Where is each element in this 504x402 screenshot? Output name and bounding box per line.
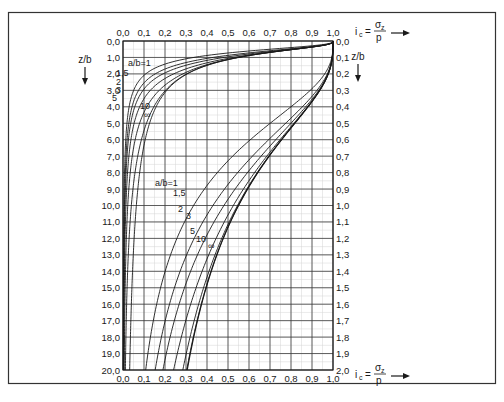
left-tick-label: 16,0 <box>102 299 121 310</box>
right-tick-label: 0,6 <box>336 134 349 145</box>
left-tick-label: 9,0 <box>107 184 120 195</box>
left-tick-label: 6,0 <box>107 134 120 145</box>
right-series-label: 3 <box>186 211 191 221</box>
right-series-label: 2 <box>178 204 183 214</box>
x-tick-label-bottom: 0,8 <box>284 373 297 384</box>
right-series-label: 10 <box>196 234 206 244</box>
right-y-tick-labels: 0,00,10,20,30,40,50,60,70,80,91,01,11,21… <box>336 36 349 376</box>
x-tick-label-bottom: 0,1 <box>137 373 150 384</box>
x-label-eq-bottom: = <box>365 369 371 380</box>
x-tick-label-bottom: 0,2 <box>158 373 171 384</box>
right-tick-label: 1,6 <box>336 299 349 310</box>
x-label-sub: c <box>359 31 363 38</box>
right-tick-label: 0,5 <box>336 118 349 129</box>
x-tick-label-bottom: 0,4 <box>200 373 213 384</box>
x-label-sigma-sub-bottom: z <box>381 367 385 374</box>
x-tick-label-bottom: 0,5 <box>221 373 234 384</box>
x-label-p: p <box>376 32 382 43</box>
right-tick-label: 0,1 <box>336 52 349 63</box>
x-tick-label-bottom: 0,3 <box>179 373 192 384</box>
left-tick-label: 17,0 <box>102 315 121 326</box>
right-tick-label: 1,9 <box>336 348 349 359</box>
right-tick-label: 2,0 <box>336 365 349 376</box>
left-tick-label: 13,0 <box>102 249 121 260</box>
right-series-label: ∞ <box>208 241 214 251</box>
right-tick-label: 1,0 <box>336 200 349 211</box>
right-series-label: a/b=1 <box>155 178 178 188</box>
left-tick-label: 14,0 <box>102 266 121 277</box>
x-label-i: i <box>355 26 357 37</box>
left-tick-label: 18,0 <box>102 332 121 343</box>
x-label-eq: = <box>365 26 371 37</box>
right-tick-label: 0,4 <box>336 101 349 112</box>
right-series-label: 1,5 <box>173 188 186 198</box>
right-tick-label: 0,9 <box>336 184 349 195</box>
left-tick-label: 5,0 <box>107 118 120 129</box>
x-tick-label-top: 0,2 <box>158 27 171 38</box>
left-tick-label: 7,0 <box>107 151 120 162</box>
left-tick-label: 12,0 <box>102 233 121 244</box>
right-tick-label: 0,0 <box>336 36 349 47</box>
left-tick-label: 10,0 <box>102 200 121 211</box>
right-tick-label: 1,2 <box>336 233 349 244</box>
left-tick-label: 0,0 <box>107 36 120 47</box>
x-label-i-bottom: i <box>355 369 357 380</box>
right-tick-label: 1,1 <box>336 216 349 227</box>
left-series-label: 5 <box>112 93 117 103</box>
x-tick-label-top: 0,3 <box>179 27 192 38</box>
left-tick-label: 11,0 <box>102 216 120 227</box>
bottom-x-tick-labels: 0,00,10,20,30,40,50,60,70,80,91,0 <box>116 373 339 384</box>
left-tick-label: 8,0 <box>107 167 120 178</box>
left-series-label: ∞ <box>144 110 150 120</box>
right-tick-label: 0,3 <box>336 85 349 96</box>
x-label-sigma-sub: z <box>381 24 385 31</box>
left-tick-label: 1,0 <box>107 52 120 63</box>
right-tick-label: 1,7 <box>336 315 349 326</box>
right-tick-label: 1,4 <box>336 266 349 277</box>
x-tick-label-bottom: 0,9 <box>305 373 318 384</box>
right-tick-label: 0,7 <box>336 151 349 162</box>
x-label-sub-bottom: c <box>359 374 363 381</box>
x-tick-label-top: 0,5 <box>221 27 234 38</box>
left-tick-label: 15,0 <box>102 282 121 293</box>
right-tick-label: 0,2 <box>336 68 349 79</box>
x-label-p-bottom: p <box>376 375 382 386</box>
left-tick-label: 20,0 <box>102 365 121 376</box>
x-tick-label-bottom: 0,7 <box>263 373 276 384</box>
x-tick-label-top: 0,7 <box>263 27 276 38</box>
x-tick-label-top: 0,4 <box>200 27 213 38</box>
right-tick-label: 1,3 <box>336 249 349 260</box>
major-grid <box>123 41 333 370</box>
chart-frame <box>9 13 496 384</box>
top-x-tick-labels: 0,00,10,20,30,40,50,60,70,80,91,0 <box>116 27 339 38</box>
x-tick-label-top: 0,1 <box>137 27 150 38</box>
right-axis-label: z/b <box>351 51 365 62</box>
x-tick-label-top: 0,9 <box>305 27 318 38</box>
x-tick-label-bottom: 0,6 <box>242 373 255 384</box>
left-series-label: a/b=1 <box>128 58 151 68</box>
influence-factor-chart: 0,00,10,20,30,40,50,60,70,80,91,0 0,00,1… <box>0 0 504 402</box>
left-tick-label: 19,0 <box>102 348 121 359</box>
right-tick-label: 1,5 <box>336 282 349 293</box>
right-tick-label: 0,8 <box>336 167 349 178</box>
right-tick-label: 1,8 <box>336 332 349 343</box>
x-tick-label-top: 0,8 <box>284 27 297 38</box>
right-series-label: 5 <box>190 226 195 236</box>
left-axis-label: z/b <box>78 54 92 65</box>
x-tick-label-top: 0,6 <box>242 27 255 38</box>
